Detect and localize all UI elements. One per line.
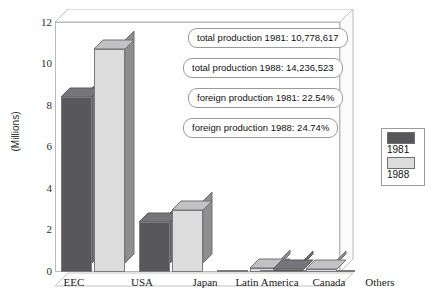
plot-wall-top-face	[55, 9, 340, 23]
annotation-total-production-1988: total production 1988: 14,236,523	[183, 58, 343, 78]
annotation-foreign-production-1988: foreign production 1988: 24.74%	[183, 118, 338, 138]
bar-others-1988[interactable]	[306, 269, 337, 272]
x-axis-labels: EEC USA Japan Latin America Canada Other…	[0, 276, 440, 296]
bar-others-1981[interactable]	[273, 269, 304, 272]
bar-usa-1981[interactable]	[139, 222, 170, 272]
y-axis: 0 2 4 6 8 10 12	[16, 0, 52, 307]
x-label-others: Others	[352, 276, 408, 289]
x-label-eec: EEC	[42, 276, 106, 289]
y-tick-2: 2	[22, 224, 52, 235]
x-label-canada: Canada	[300, 276, 358, 289]
bar-eec-1988[interactable]	[94, 49, 125, 272]
annotation-foreign-production-1981: foreign production 1981: 22.54%	[188, 88, 343, 108]
y-tick-4: 4	[22, 183, 52, 194]
bar-usa-1988[interactable]	[172, 210, 203, 272]
y-tick-8: 8	[22, 100, 52, 111]
x-label-japan: Japan	[178, 276, 232, 289]
y-axis-title: (Millions)	[10, 84, 21, 180]
chart-canvas: 0 2 4 6 8 10 12 (Millions)	[0, 0, 440, 307]
x-label-usa: USA	[110, 276, 174, 289]
legend-label-1981: 1981	[387, 144, 424, 156]
chart-legend: 1981 1988	[381, 128, 425, 186]
x-label-latin-america: Latin America	[226, 276, 308, 289]
bar-eec-1981[interactable]	[61, 97, 92, 272]
annotation-total-production-1981: total production 1981: 10,778,617	[188, 28, 348, 48]
y-tick-6: 6	[22, 141, 52, 152]
legend-swatch-1988	[387, 157, 415, 169]
legend-swatch-1981	[387, 132, 415, 144]
y-tick-10: 10	[22, 58, 52, 69]
bar-japan-1981[interactable]	[217, 271, 248, 272]
bar-group-eec	[61, 22, 131, 272]
legend-label-1988: 1988	[387, 169, 424, 181]
y-tick-12: 12	[22, 17, 52, 28]
